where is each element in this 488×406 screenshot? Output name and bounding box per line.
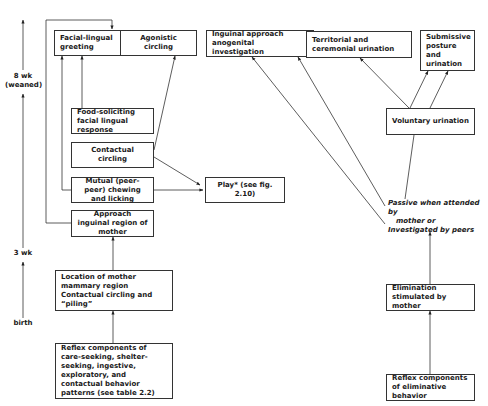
box-text: Food-soliciting facial lingual response (77, 108, 148, 135)
box-food-soliciting: Food-soliciting facial lingual response (71, 108, 154, 134)
box-territorial-urination: Territorial and ceremonial urination (306, 31, 412, 58)
box-reflex-components: Reflex components of care-seeking, shelt… (55, 343, 173, 399)
timeline-label-birth: birth (8, 319, 38, 328)
box-agonistic-circling: Agonistic circling (120, 30, 197, 56)
box-text: Agonistic circling (126, 34, 191, 52)
box-play: Play* (see fig. 2.10) (205, 177, 285, 203)
box-text: Elimination stimulated by mother (392, 284, 469, 311)
note-text: mother or (388, 217, 484, 226)
timeline-label-weaned: 8 wk (weaned) (5, 72, 41, 90)
box-text: Reflex components of care-seeking, shelt… (61, 344, 167, 398)
box-text: Location of mother mammary region Contac… (61, 273, 167, 309)
label-weaned: (weaned) (5, 81, 41, 90)
box-text: Submissive posture and urination (426, 33, 471, 69)
timeline-label-3wk: 3 wk (8, 249, 38, 258)
box-contactual-circling: Contactual circling (71, 142, 154, 168)
box-text: Voluntary urination (392, 117, 469, 126)
box-text: Approach inguinal region of mother (77, 210, 148, 237)
note-text: by peers (438, 226, 475, 234)
box-reflex-eliminative: Reflex components of eliminative behavio… (386, 374, 475, 401)
box-facial-lingual-greeting: Facial-lingual greeting (54, 30, 121, 56)
box-text: Facial-lingual greeting (60, 34, 115, 52)
box-text: Reflex components of eliminative behavio… (392, 374, 469, 401)
box-submissive-posture: Submissive posture and urination (420, 30, 475, 71)
box-mutual-chewing: Mutual (peer-peer) chewing and licking (71, 177, 154, 203)
box-elimination-stimulated: Elimination stimulated by mother (386, 284, 475, 311)
box-text: Mutual (peer-peer) chewing and licking (77, 177, 148, 204)
box-approach-inguinal-mother: Approach inguinal region of mother (71, 210, 154, 237)
box-inguinal-approach: Inguinal approach anogenital investigati… (206, 30, 314, 57)
note-investigated: Investigated (388, 226, 438, 234)
box-text: Territorial and ceremonial urination (312, 36, 406, 54)
box-location-of-mother: Location of mother mammary region Contac… (55, 270, 173, 311)
note-passive: Passive (388, 199, 417, 207)
box-text: Play* (see fig. 2.10) (211, 181, 279, 199)
box-text: Inguinal approach anogenital investigati… (212, 30, 308, 57)
box-voluntary-urination: Voluntary urination (386, 108, 475, 135)
label-8wk: 8 wk (5, 72, 41, 81)
passive-note: Passive when attended by mother or Inves… (388, 199, 484, 235)
box-text: Contactual circling (77, 146, 148, 164)
